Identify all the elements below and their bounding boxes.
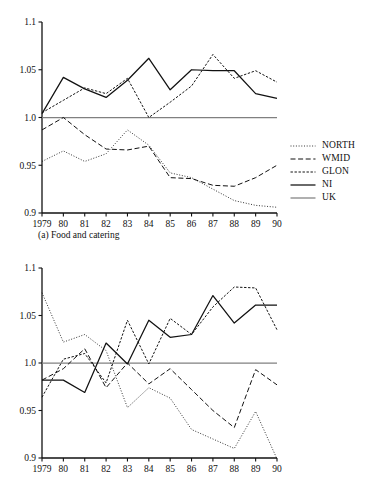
y-axis-tick-label: 1.1: [24, 263, 36, 273]
series-line-ni: [42, 58, 277, 113]
chart-panel-food-and-catering: 0.90.951.01.051.119798081828384858687888…: [0, 0, 372, 250]
legend-label: NI: [322, 178, 332, 191]
x-axis-tick-label: 82: [101, 464, 111, 474]
legend-label: NORTH: [322, 139, 355, 152]
x-axis-tick-label: 88: [230, 464, 240, 474]
x-axis-tick-label: 86: [187, 219, 197, 229]
y-axis-tick-label: 1.05: [19, 311, 36, 321]
y-axis-tick-label: 1.05: [19, 65, 36, 75]
x-axis-tick-label: 90: [272, 464, 282, 474]
series-line-wmid: [42, 118, 277, 187]
legend-item-wmid: WMID: [290, 152, 355, 165]
x-axis-tick-label: 81: [80, 464, 90, 474]
y-axis-tick-label: 1.0: [24, 358, 36, 368]
legend-item-uk: UK: [290, 191, 355, 204]
x-axis-tick-label: 81: [80, 219, 90, 229]
x-axis-tick-label: 85: [165, 219, 175, 229]
x-axis-tick-label: 86: [187, 464, 197, 474]
x-axis-tick-label: 89: [251, 464, 261, 474]
legend-label: UK: [322, 191, 336, 204]
x-axis-tick-label: 84: [144, 464, 154, 474]
x-axis-tick-label: 83: [123, 464, 133, 474]
line-chart-a: 0.90.951.01.051.119798081828384858687888…: [0, 0, 372, 250]
plot-area-b: 0.90.951.01.051.119798081828384858687888…: [0, 250, 372, 497]
x-axis-tick-label: 90: [272, 219, 282, 229]
x-axis-tick-label: 87: [208, 219, 218, 229]
legend-label: WMID: [322, 152, 350, 165]
series-line-wmid: [42, 287, 277, 397]
x-axis-tick-label: 80: [59, 219, 69, 229]
x-axis-tick-label: 1979: [33, 219, 52, 229]
legend-key-glon-icon: [290, 167, 316, 177]
series-line-glon: [42, 54, 277, 117]
x-axis-tick-label: 1979: [33, 464, 52, 474]
y-axis-tick-label: 0.95: [19, 406, 36, 416]
y-axis-tick-label: 1.0: [24, 113, 36, 123]
legend-item-north: NORTH: [290, 139, 355, 152]
line-chart-b: 0.90.951.01.051.119798081828384858687888…: [0, 250, 372, 497]
chart-panel-alcoholic-drink: 0.90.951.01.051.119798081828384858687888…: [0, 250, 372, 497]
legend-item-glon: GLON: [290, 165, 355, 178]
x-axis-tick-label: 80: [59, 464, 69, 474]
x-axis-tick-label: 82: [101, 219, 111, 229]
y-axis-tick-label: 0.9: [24, 208, 36, 218]
series-line-north: [42, 293, 277, 459]
legend-key-wmid-icon: [290, 154, 316, 164]
x-axis-tick-label: 88: [230, 219, 240, 229]
x-axis-tick-label: 87: [208, 464, 218, 474]
y-axis-tick-label: 1.1: [24, 17, 36, 27]
y-axis-tick-label: 0.95: [19, 161, 36, 171]
legend-key-north-icon: [290, 141, 316, 151]
x-axis-tick-label: 83: [123, 219, 133, 229]
legend-key-uk-icon: [290, 193, 316, 203]
legend-key-ni-icon: [290, 180, 316, 190]
legend-a: NORTHWMIDGLONNIUK: [290, 139, 355, 204]
x-axis-tick-label: 85: [165, 464, 175, 474]
x-axis-tick-label: 84: [144, 219, 154, 229]
legend-label: GLON: [322, 165, 349, 178]
series-line-scot: [42, 296, 277, 393]
plot-area-a: 0.90.951.01.051.119798081828384858687888…: [0, 0, 372, 250]
figure-two-line-charts: 0.90.951.01.051.119798081828384858687888…: [0, 0, 372, 497]
y-axis-tick-label: 0.9: [24, 453, 36, 463]
x-axis-tick-label: 89: [251, 219, 261, 229]
legend-item-ni: NI: [290, 178, 355, 191]
caption-a: (a) Food and catering: [38, 230, 120, 240]
series-line-north: [42, 130, 277, 207]
